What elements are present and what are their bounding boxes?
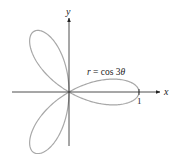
eq-theta: θ: [121, 67, 126, 77]
x-tick-label: 1: [137, 96, 142, 106]
polar-rose-chart: 1 x y r = cos 3θ: [0, 0, 175, 154]
eq-mid: = cos 3: [91, 67, 121, 77]
x-axis-label: x: [163, 86, 169, 97]
equation-label: r = cos 3θ: [87, 67, 126, 77]
y-axis-label: y: [65, 6, 71, 17]
